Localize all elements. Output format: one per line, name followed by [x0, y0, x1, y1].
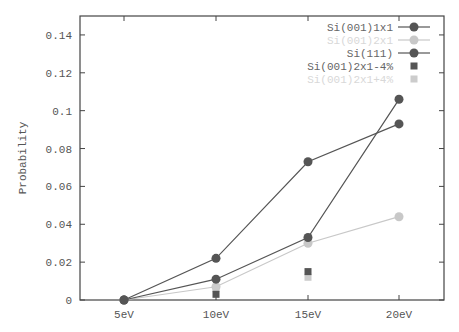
legend-label: Si(001)2x1-4%: [307, 61, 393, 73]
legend-label: Si(111): [347, 48, 393, 60]
legend: Si(001)1x1Si(001)2x1Si(111)Si(001)2x1-4%…: [307, 22, 430, 86]
data-point: [304, 157, 313, 166]
data-point: [120, 296, 129, 305]
data-point: [213, 291, 220, 298]
data-point: [395, 119, 404, 128]
y-tick-label: 0.02: [46, 257, 72, 269]
data-point: [305, 268, 312, 275]
legend-marker: [411, 76, 418, 83]
y-tick-label: 0.12: [46, 68, 72, 80]
data-point: [395, 212, 404, 221]
legend-label: Si(001)1x1: [327, 22, 393, 34]
legend-marker: [410, 23, 419, 32]
x-tick-label: 20eV: [386, 309, 413, 321]
legend-label: Si(001)2x1: [327, 35, 393, 47]
legend-label: Si(001)2x1+4%: [307, 74, 393, 86]
legend-marker: [411, 63, 418, 70]
series-si-111-: [120, 119, 404, 304]
series-si-001-2x1-4-: [213, 274, 312, 292]
y-tick-label: 0.06: [46, 181, 72, 193]
series-si-001-2x1-4-: [213, 268, 312, 298]
chart: 00.020.040.060.080.10.120.145eV10eV15eV2…: [0, 0, 459, 332]
y-tick-label: 0.14: [46, 30, 73, 42]
legend-marker: [410, 49, 419, 58]
data-point: [304, 233, 313, 242]
data-point: [212, 275, 221, 284]
y-axis-label: Probability: [17, 121, 29, 194]
y-tick-label: 0.1: [52, 106, 72, 118]
data-point: [395, 95, 404, 104]
x-tick-label: 15eV: [295, 309, 322, 321]
plot-area: 00.020.040.060.080.10.120.145eV10eV15eV2…: [46, 16, 444, 321]
legend-marker: [410, 36, 419, 45]
y-tick-label: 0.04: [46, 219, 73, 231]
y-tick-label: 0: [65, 295, 72, 307]
data-point: [212, 254, 221, 263]
y-tick-label: 0.08: [46, 144, 72, 156]
x-tick-label: 5eV: [114, 309, 134, 321]
series-si-001-1x1: [120, 95, 404, 305]
x-tick-label: 10eV: [203, 309, 230, 321]
